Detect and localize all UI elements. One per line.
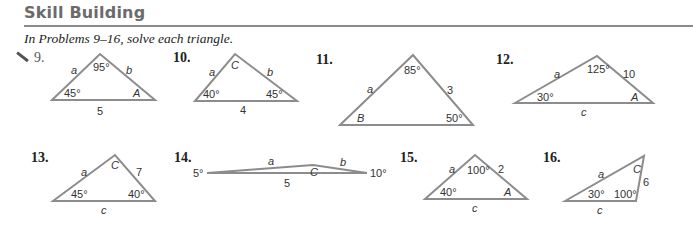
svg-text:6: 6 [643,176,649,188]
triangle-figures: a 95° b 45° A 5 a C b 40° 45° 4 a 85° 3 … [0,0,693,228]
svg-text:10°: 10° [370,167,387,179]
triangle-13-labels: a C 7 45° 40° c [71,159,145,216]
svg-text:4: 4 [240,104,246,116]
svg-text:b: b [340,156,346,168]
svg-text:C: C [310,166,318,178]
svg-text:5: 5 [284,177,290,189]
svg-text:125°: 125° [587,63,610,75]
svg-text:b: b [267,66,273,78]
svg-text:7: 7 [136,166,142,178]
svg-text:3: 3 [447,84,453,96]
svg-text:2: 2 [498,163,504,175]
svg-text:40°: 40° [128,188,145,200]
triangle-15-labels: a 100° 2 40° A c [440,163,511,214]
svg-text:a: a [71,64,77,76]
svg-text:85°: 85° [404,64,421,76]
svg-text:A: A [503,186,511,198]
svg-text:40°: 40° [440,186,457,198]
svg-text:a: a [598,168,604,180]
svg-text:c: c [597,204,603,216]
svg-text:100°: 100° [614,188,637,200]
triangle-9-labels: a 95° b 45° A 5 [64,61,140,117]
svg-text:A: A [630,91,638,103]
triangle-11-labels: a 85° 3 B 50° [357,64,463,124]
svg-text:45°: 45° [266,88,283,100]
svg-text:c: c [101,204,107,216]
svg-text:c: c [472,202,478,214]
svg-text:a: a [367,83,373,95]
svg-text:5°: 5° [193,167,204,179]
svg-text:a: a [554,68,560,80]
svg-text:C: C [111,159,119,171]
svg-text:C: C [231,59,239,71]
svg-text:30°: 30° [588,188,605,200]
triangle-12-labels: a 125° 10 30° A c [537,63,638,118]
svg-text:A: A [132,87,140,99]
svg-text:40°: 40° [203,88,220,100]
svg-text:a: a [449,163,455,175]
svg-text:C: C [633,163,641,175]
svg-text:B: B [357,112,364,124]
svg-text:95°: 95° [93,61,110,73]
svg-text:5: 5 [97,105,103,117]
svg-text:c: c [581,106,587,118]
svg-text:a: a [209,66,215,78]
svg-text:45°: 45° [71,188,88,200]
svg-text:50°: 50° [446,112,463,124]
svg-text:100°: 100° [467,164,490,176]
svg-text:b: b [126,64,132,76]
svg-text:a: a [81,166,87,178]
svg-text:10: 10 [623,68,635,80]
triangle-10-labels: a C b 40° 45° 4 [203,59,283,116]
svg-text:a: a [268,155,274,167]
svg-text:30°: 30° [537,91,554,103]
svg-text:45°: 45° [64,87,81,99]
